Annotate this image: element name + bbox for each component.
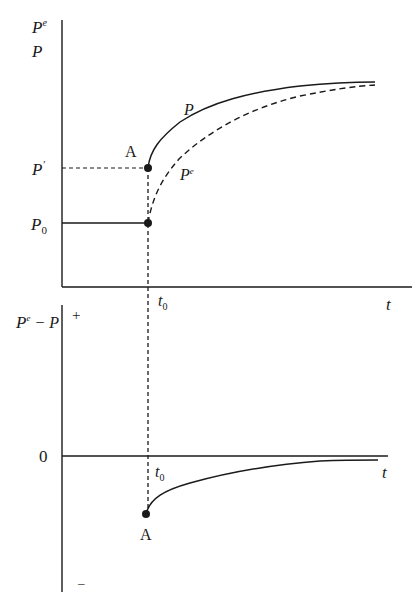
curve-p-label: P [183,101,194,118]
point-p0 [144,219,152,227]
point-a-top [144,164,152,172]
point-a-bottom [142,510,150,518]
expectation-gap-curve [146,460,378,514]
plus-sign: + [72,307,80,323]
bottom-panel: Pe − P + – 0 t0 t A [15,305,388,592]
t0-bottom-label: t0 [155,463,164,483]
minus-sign: – [77,575,85,590]
top-y-label-p: P [31,42,42,61]
t0-top-label: t0 [158,292,167,312]
actual-price-curve [148,82,375,168]
zero-label: 0 [39,447,48,466]
p0-label: P0 [30,215,47,236]
expected-price-curve [148,85,375,223]
bottom-y-label: Pe − P [15,313,59,332]
expectations-diagram: Pe P P′ P0 A P Pe t0 t Pe − P + – 0 [0,0,412,606]
pprime-label: P′ [31,158,45,179]
t-top-label: t [386,295,392,314]
t-bottom-label: t [382,463,388,482]
point-a-bottom-label: A [140,526,152,543]
top-y-label-pe: Pe [31,17,47,37]
top-panel: Pe P P′ P0 A P Pe t0 t [30,17,412,514]
point-a-top-label: A [125,143,137,160]
curve-pe-label: Pe [179,166,194,183]
